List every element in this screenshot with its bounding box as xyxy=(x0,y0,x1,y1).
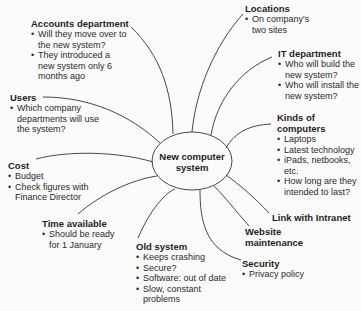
center-line2: system xyxy=(176,162,209,173)
center-line1: New computer xyxy=(159,151,224,162)
node-cost-title: Cost xyxy=(8,160,98,171)
node-users-item: Which company departments will use the s… xyxy=(10,103,100,135)
node-users: Users Which company departments will use… xyxy=(10,92,100,135)
node-accounts-item: They introduced a new system only 6 mont… xyxy=(31,50,122,82)
connector-kinds xyxy=(226,124,271,148)
node-old-title: Old system xyxy=(136,241,236,252)
node-old-item: Secure? xyxy=(136,263,236,274)
node-accounts-title: Accounts department xyxy=(31,18,131,29)
node-it-item: Who will build the new system? xyxy=(278,59,360,80)
node-cost: Cost Budget Check figures with Finance D… xyxy=(8,160,98,203)
node-old: Old system Keeps crashing Secure? Softwa… xyxy=(136,241,236,305)
node-locations-title: Locations xyxy=(245,3,310,14)
node-kinds: Kinds of computers Laptops Latest techno… xyxy=(277,112,361,197)
connector-intranet xyxy=(226,175,269,213)
node-it-title: IT department xyxy=(278,48,360,59)
connector-locations xyxy=(192,14,243,132)
node-kinds-item: Latest technology xyxy=(277,145,361,156)
node-it: IT department Who will build the new sys… xyxy=(278,48,360,101)
node-security-item: Privacy policy xyxy=(242,269,322,280)
node-kinds-title: Kinds of computers xyxy=(277,112,361,134)
node-locations: Locations On company's two sites xyxy=(245,3,310,35)
node-locations-item: On company's two sites xyxy=(245,14,310,35)
connector-website xyxy=(214,186,249,226)
center-node: New computersystem xyxy=(153,133,231,190)
node-old-item: Software: out of date xyxy=(136,273,236,284)
node-intranet: Link with Intranet xyxy=(272,212,361,223)
node-users-title: Users xyxy=(10,92,100,103)
connector-it xyxy=(211,57,272,135)
connector-old xyxy=(138,189,175,238)
node-it-item: Who will install the new system? xyxy=(278,80,360,101)
node-cost-item: Check figures with Finance Director xyxy=(8,182,98,203)
node-time-title: Time available xyxy=(42,218,127,229)
node-old-item: Keeps crashing xyxy=(136,252,236,263)
node-kinds-item: How long are they intended to last? xyxy=(277,176,361,197)
node-intranet-title: Link with Intranet xyxy=(272,212,361,223)
node-time-item: Should be ready for 1 January xyxy=(42,229,127,250)
node-kinds-item: iPads, netbooks, etc. xyxy=(277,155,361,176)
node-website-title: Website maintenance xyxy=(245,226,305,248)
node-security-title: Security xyxy=(242,258,322,269)
node-old-item: Slow, constant problems xyxy=(136,284,236,305)
node-accounts: Accounts department Will they move over … xyxy=(31,18,131,82)
node-time: Time available Should be ready for 1 Jan… xyxy=(42,218,127,250)
node-security: Security Privacy policy xyxy=(242,258,322,280)
connector-accounts xyxy=(131,27,173,134)
node-cost-item: Budget xyxy=(8,171,98,182)
node-website: Website maintenance xyxy=(245,226,305,248)
node-kinds-item: Laptops xyxy=(277,134,361,145)
node-accounts-item: Will they move over to the new system? xyxy=(31,29,131,50)
